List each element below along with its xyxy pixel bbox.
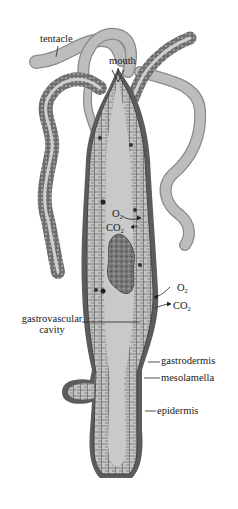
label-mouth: mouth	[109, 55, 136, 66]
label-o2-outer: O2	[177, 282, 188, 295]
label-co2-inner: CO2	[106, 222, 124, 235]
label-co2-outer: CO2	[173, 300, 191, 313]
label-gastrovascular-cavity: gastrovascular cavity	[12, 313, 92, 335]
hydra-body	[62, 68, 158, 478]
label-o2-inner: O2	[112, 208, 123, 221]
label-mesolamella: mesolamella	[161, 372, 214, 383]
label-epidermis: epidermis	[157, 405, 198, 416]
hydra-diagram	[0, 0, 238, 509]
label-tentacle: tentacle	[40, 33, 73, 44]
label-gastrodermis: gastrodermis	[161, 355, 215, 366]
